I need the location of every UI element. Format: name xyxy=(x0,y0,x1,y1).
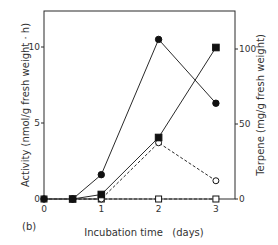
filled-circle-marker xyxy=(41,196,47,202)
y-left-tick-label: 5 xyxy=(34,118,40,128)
series-filled-square xyxy=(69,44,219,202)
x-tick-label: 0 xyxy=(41,204,47,214)
filled-circle-marker xyxy=(98,171,104,177)
plot-frame xyxy=(44,11,235,199)
x-tick-label: 3 xyxy=(213,204,219,214)
filled-circle-marker xyxy=(69,196,75,202)
y-right-tick-label: 0 xyxy=(239,194,245,204)
filled-square-marker xyxy=(98,191,105,198)
y-left-tick-label: 0 xyxy=(34,194,40,204)
series-filled-circle xyxy=(41,36,219,202)
y-right-tick-label: 100 xyxy=(239,44,256,54)
panel-label: (b) xyxy=(22,221,36,232)
open-square-marker xyxy=(213,196,219,202)
axis-ticks: 01230510050100 xyxy=(29,42,257,214)
filled-square-marker xyxy=(213,44,220,51)
series-open-circle xyxy=(70,140,219,202)
filled-circle-marker xyxy=(155,36,161,42)
y-axis-right-label: Terpene (mg/g fresh weight) xyxy=(255,34,266,177)
series-line xyxy=(44,39,216,199)
x-tick-label: 1 xyxy=(98,204,104,214)
data-series xyxy=(41,36,219,202)
plot-border xyxy=(44,11,235,199)
chart-svg: 01230510050100 Activity (nmol/g fresh we… xyxy=(0,0,278,245)
x-tick-label: 2 xyxy=(156,204,162,214)
x-axis-label: Incubation time (days) xyxy=(84,227,204,238)
y-axis-left-label: Activity (nmol/g fresh weight · h) xyxy=(20,23,31,187)
chart-figure: 01230510050100 Activity (nmol/g fresh we… xyxy=(0,0,278,245)
filled-square-marker xyxy=(155,134,162,141)
y-right-tick-label: 50 xyxy=(239,119,251,129)
series-line xyxy=(73,48,216,200)
filled-circle-marker xyxy=(213,100,219,106)
open-square-marker xyxy=(156,196,162,202)
open-circle-marker xyxy=(213,178,219,184)
